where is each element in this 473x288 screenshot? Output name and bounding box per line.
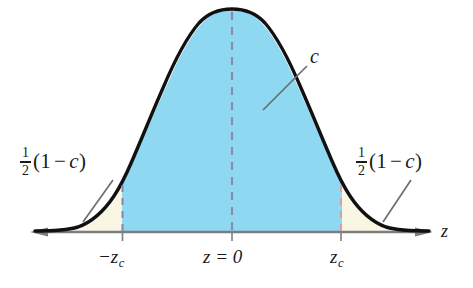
distribution-plot [0, 0, 473, 288]
tick-label-zc: zc [330, 247, 343, 266]
right-tail-fraction-numerator: 1 [357, 146, 366, 160]
leader-line-right-tail [383, 180, 411, 222]
tick-label-center: z = 0 [203, 247, 242, 266]
left-tail-close-paren: ) [79, 149, 86, 173]
tick-label-zc-main: z [330, 246, 337, 267]
left-tail-fraction: 1 2 [20, 146, 31, 178]
right-tail-probability-label: 1 2 (1−c) [356, 146, 422, 178]
left-tail-minus: − [51, 149, 69, 173]
tick-label-zc-subscript: c [338, 256, 344, 270]
left-tail-probability-label: 1 2 (1−c) [20, 146, 86, 178]
right-tail-one: 1 [376, 149, 387, 173]
left-tail-c: c [69, 149, 79, 173]
right-tail-c: c [405, 149, 415, 173]
tick-label-minus-zc-subscript: c [119, 256, 125, 270]
tick-label-minus-zc-main: −z [98, 246, 118, 267]
right-tail-expression: (1−c) [369, 151, 422, 172]
left-tail-expression: (1−c) [33, 151, 86, 172]
normal-distribution-figure: 1 2 (1−c) 1 2 (1−c) c z −zc z = 0 zc [0, 0, 473, 288]
x-axis-label: z [441, 222, 448, 240]
central-area-label: c [310, 46, 319, 66]
right-tail-close-paren: ) [415, 149, 422, 173]
left-tail-one: 1 [40, 149, 51, 173]
tick-label-center-text: z = 0 [203, 246, 242, 267]
right-tail-minus: − [387, 149, 405, 173]
left-tail-fraction-numerator: 1 [21, 146, 30, 160]
left-tail-fraction-denominator: 2 [21, 164, 30, 178]
right-tail-fraction-denominator: 2 [357, 164, 366, 178]
left-tail-area [33, 184, 122, 232]
tick-label-minus-zc: −zc [98, 247, 124, 266]
right-tail-fraction: 1 2 [356, 146, 367, 178]
